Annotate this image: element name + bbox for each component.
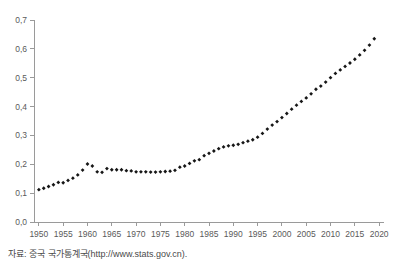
x-tick-label: 2015 <box>345 229 364 239</box>
data-point <box>333 71 337 75</box>
x-tick-label: 1980 <box>175 229 194 239</box>
data-point <box>105 167 109 171</box>
data-point <box>134 170 138 174</box>
data-point <box>280 116 284 120</box>
data-series <box>37 37 376 192</box>
data-point <box>173 168 177 172</box>
chart-figure: 0,00,10,20,30,40,50,60,7 195019551960196… <box>0 0 402 240</box>
data-point <box>324 80 328 84</box>
data-point <box>212 149 216 153</box>
data-point <box>368 43 372 47</box>
data-point <box>178 165 182 169</box>
data-point <box>158 170 162 174</box>
data-point <box>47 185 51 189</box>
data-point <box>343 65 347 69</box>
data-point <box>275 120 279 124</box>
data-point <box>261 132 265 136</box>
data-point <box>217 147 221 151</box>
x-tick-label: 1965 <box>102 229 121 239</box>
data-point <box>37 188 41 192</box>
data-point <box>251 138 255 142</box>
data-point <box>290 107 294 111</box>
source-caption: 자료: 중국 국가통계국(http://www.stats.gov.cn). <box>8 247 187 260</box>
data-point <box>241 141 245 145</box>
data-point <box>188 162 192 166</box>
data-point <box>110 168 114 172</box>
data-point <box>363 48 367 52</box>
data-point <box>183 164 187 168</box>
x-tick-label: 1960 <box>78 229 97 239</box>
data-point <box>309 92 313 96</box>
data-point <box>120 168 124 172</box>
data-point <box>231 143 235 147</box>
x-tick-label: 2010 <box>321 229 340 239</box>
data-point <box>319 84 323 88</box>
data-point <box>246 139 250 143</box>
y-tick-label: 0,7 <box>15 15 27 25</box>
data-point <box>348 61 352 65</box>
y-tick-label: 0,4 <box>15 102 27 112</box>
x-tick-label: 1975 <box>151 229 170 239</box>
data-point <box>338 68 342 72</box>
data-point <box>95 170 99 174</box>
data-point <box>76 173 80 177</box>
data-point <box>314 87 318 91</box>
data-point <box>285 112 289 116</box>
y-tick-label: 0,1 <box>15 188 27 198</box>
data-point <box>52 183 56 187</box>
data-point <box>353 57 357 61</box>
data-point <box>154 170 158 174</box>
data-point <box>227 144 231 148</box>
x-axis: 1950195519601965197019751980198519901995… <box>29 222 388 239</box>
x-tick-label: 1955 <box>54 229 73 239</box>
data-point <box>236 142 240 146</box>
x-tick-label: 1990 <box>224 229 243 239</box>
data-point <box>139 170 143 174</box>
data-point <box>197 158 201 162</box>
data-point <box>329 76 333 80</box>
x-tick-label: 2000 <box>272 229 291 239</box>
y-tick-label: 0,5 <box>15 73 27 83</box>
data-point <box>207 151 211 155</box>
data-point <box>358 53 362 57</box>
data-point <box>168 169 172 173</box>
y-tick-label: 0,3 <box>15 130 27 140</box>
data-point <box>265 127 269 131</box>
data-point <box>61 181 65 185</box>
data-point <box>372 37 376 41</box>
y-tick-label: 0,6 <box>15 44 27 54</box>
x-tick-label: 2020 <box>370 229 389 239</box>
data-point <box>71 176 75 180</box>
x-tick-label: 1970 <box>127 229 146 239</box>
data-point <box>144 170 148 174</box>
data-point <box>129 169 133 173</box>
data-point <box>81 168 85 172</box>
y-tick-label: 0,0 <box>15 217 27 227</box>
data-point <box>202 154 206 158</box>
x-tick-label: 1995 <box>248 229 267 239</box>
data-point <box>299 99 303 103</box>
y-axis: 0,00,10,20,30,40,50,60,7 <box>15 15 34 227</box>
data-point <box>100 170 104 174</box>
data-point <box>86 162 90 166</box>
data-point <box>304 96 308 100</box>
data-point <box>90 164 94 168</box>
data-point <box>193 159 197 163</box>
data-point <box>163 170 167 174</box>
line-chart: 0,00,10,20,30,40,50,60,7 195019551960196… <box>0 0 402 240</box>
data-point <box>124 169 128 173</box>
data-point <box>295 103 299 107</box>
data-point <box>149 170 153 174</box>
data-point <box>115 168 119 172</box>
y-tick-label: 0,2 <box>15 159 27 169</box>
x-tick-label: 1985 <box>200 229 219 239</box>
data-point <box>256 135 260 139</box>
data-point <box>270 123 274 127</box>
data-point <box>66 179 70 183</box>
data-point <box>42 186 46 190</box>
data-point <box>56 181 60 185</box>
data-point <box>222 145 226 149</box>
x-tick-label: 2005 <box>297 229 316 239</box>
x-tick-label: 1950 <box>29 229 48 239</box>
